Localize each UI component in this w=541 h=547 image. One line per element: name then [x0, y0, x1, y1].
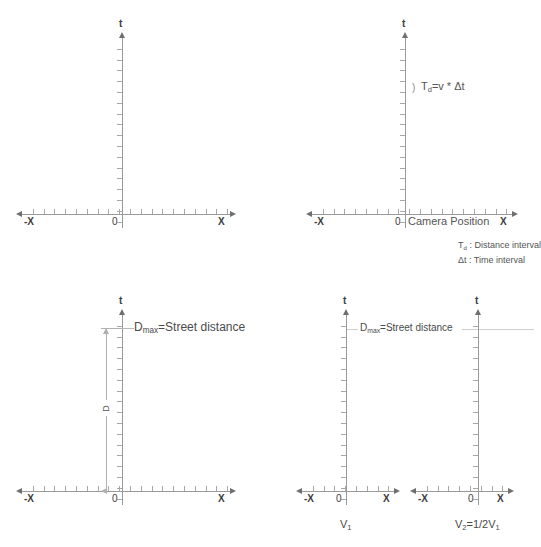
- axis-tick: [216, 486, 217, 491]
- axis-tick: [481, 486, 482, 491]
- axis-tick: [388, 209, 389, 214]
- axis-tick: [341, 391, 346, 392]
- axis-tick: [119, 486, 120, 491]
- axis-tick: [377, 209, 378, 214]
- axis-tick: [473, 326, 478, 327]
- axis-tick: [117, 60, 122, 61]
- axis-tick: [400, 222, 405, 223]
- axis-tick: [438, 486, 439, 491]
- axis-tick: [152, 486, 153, 491]
- axis-tick: [473, 455, 478, 456]
- t-axis: [122, 315, 123, 505]
- axis-tick: [400, 103, 405, 104]
- axis-tick: [400, 168, 405, 169]
- t-axis: [478, 315, 479, 505]
- axis-tick: [448, 486, 449, 491]
- panel-street-distance-axes: t X -X 0 D Dmax=Street distance: [0, 290, 270, 547]
- axis-tick: [341, 423, 346, 424]
- axis-tick: [324, 486, 325, 491]
- x-axis-arrow-right-icon: [394, 488, 400, 494]
- x-axis-positive-label: X: [497, 494, 504, 504]
- distance-formula-label: Td=v * Δt: [421, 81, 465, 93]
- axis-tick: [400, 146, 405, 147]
- axis-tick: [334, 486, 335, 491]
- x-axis-arrow-right-icon: [230, 488, 236, 494]
- t-axis: [346, 315, 347, 505]
- x-axis-positive-label: X: [500, 217, 507, 227]
- axis-tick: [400, 157, 405, 158]
- axis-tick: [117, 326, 122, 327]
- axis-tick: [117, 499, 122, 500]
- x-axis-positive-label: X: [383, 494, 390, 504]
- axis-tick: [356, 486, 357, 491]
- t-axis-arrow-icon: [475, 309, 481, 315]
- axis-tick: [470, 486, 471, 491]
- x-axis-arrow-left-icon: [306, 211, 312, 217]
- x-axis: [22, 214, 230, 215]
- axis-tick: [474, 209, 475, 214]
- axis-tick: [431, 209, 432, 214]
- axis-tick: [341, 412, 346, 413]
- axis-tick: [420, 209, 421, 214]
- axis-tick: [344, 209, 345, 214]
- dimension-label: D: [102, 405, 111, 412]
- axis-tick: [195, 209, 196, 214]
- axis-tick: [117, 135, 122, 136]
- axis-tick: [117, 380, 122, 381]
- x-axis: [416, 491, 508, 492]
- axis-tick: [173, 209, 174, 214]
- axis-tick: [130, 486, 131, 491]
- axis-tick: [492, 486, 493, 491]
- x-axis-negative-label: -X: [418, 494, 428, 504]
- t-axis-label: t: [343, 296, 346, 306]
- t-axis-label: t: [475, 296, 478, 306]
- axis-tick: [44, 209, 45, 214]
- t-axis-arrow-icon: [343, 309, 349, 315]
- axis-tick: [378, 486, 379, 491]
- axis-tick: [117, 146, 122, 147]
- axis-tick: [216, 209, 217, 214]
- axis-tick: [117, 337, 122, 338]
- t-axis-arrow-icon: [119, 309, 125, 315]
- axis-tick: [195, 486, 196, 491]
- axis-tick: [33, 209, 34, 214]
- axis-tick: [117, 466, 122, 467]
- axis-tick: [473, 358, 478, 359]
- t-axis: [122, 38, 123, 228]
- velocity-1-label: V1: [340, 519, 352, 531]
- axis-tick: [400, 135, 405, 136]
- axis-tick: [117, 434, 122, 435]
- axis-tick: [117, 401, 122, 402]
- axis-tick: [473, 466, 478, 467]
- dimension-top-arrow-icon: [103, 328, 109, 334]
- axis-tick: [54, 486, 55, 491]
- axis-tick: [341, 466, 346, 467]
- dmax-street-distance-label: Dmax=Street distance: [134, 321, 245, 335]
- dmax-leader-line: [123, 328, 134, 329]
- axis-tick: [141, 209, 142, 214]
- axis-tick: [117, 178, 122, 179]
- axis-tick: [206, 209, 207, 214]
- axis-tick: [341, 337, 346, 338]
- axis-tick: [502, 486, 503, 491]
- x-axis-arrow-right-icon: [230, 211, 236, 217]
- axis-tick: [117, 445, 122, 446]
- x-axis-negative-label: -X: [24, 217, 34, 227]
- axis-tick: [65, 209, 66, 214]
- axis-tick: [473, 380, 478, 381]
- axis-tick: [400, 211, 405, 212]
- axis-tick: [117, 168, 122, 169]
- axis-tick: [54, 209, 55, 214]
- axis-tick: [400, 92, 405, 93]
- axis-tick: [400, 114, 405, 115]
- x-axis-positive-label: X: [218, 494, 225, 504]
- camera-position-label: Camera Position: [408, 216, 489, 227]
- axis-tick: [117, 81, 122, 82]
- axis-tick: [33, 486, 34, 491]
- panel-empty-spacetime-axes: t X -X 0: [0, 0, 270, 273]
- axis-tick: [400, 189, 405, 190]
- axis-tick: [162, 486, 163, 491]
- t-axis-arrow-icon: [119, 32, 125, 38]
- axis-tick: [98, 209, 99, 214]
- axis-tick: [459, 486, 460, 491]
